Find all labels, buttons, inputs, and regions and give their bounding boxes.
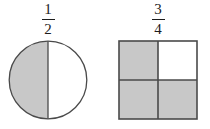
square-region-top-left-quadrant <box>119 41 158 80</box>
circle-region-right-half <box>48 41 87 119</box>
square-svg <box>118 40 198 120</box>
fraction-label-three-fourths: 3 4 <box>152 2 165 37</box>
fraction-figure-circle: 1 2 <box>8 2 88 120</box>
square-diagram <box>118 40 198 120</box>
fraction-figure-square: 3 4 <box>118 2 198 120</box>
fraction-numerator: 3 <box>153 2 163 17</box>
fraction-denominator: 2 <box>43 22 53 37</box>
circle-svg <box>8 40 88 120</box>
circle-region-left-half <box>9 41 48 119</box>
fraction-bar <box>42 19 55 20</box>
square-region-bottom-right-quadrant <box>158 80 197 119</box>
fraction-label-one-half: 1 2 <box>42 2 55 37</box>
circle-diagram <box>8 40 88 120</box>
fraction-denominator: 4 <box>153 22 163 37</box>
square-region-bottom-left-quadrant <box>119 80 158 119</box>
square-region-top-right-quadrant <box>158 41 197 80</box>
fraction-bar <box>152 19 165 20</box>
fraction-numerator: 1 <box>43 2 53 17</box>
